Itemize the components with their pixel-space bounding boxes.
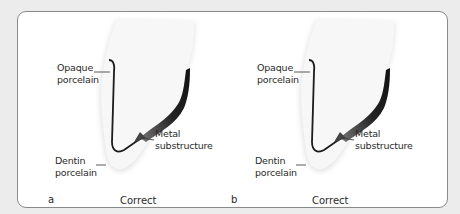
- panel-letter: a: [48, 194, 54, 205]
- panel-caption: Correct: [312, 195, 349, 206]
- tooth-crown-illustration: [200, 0, 430, 214]
- label-line: Dentin: [55, 155, 97, 167]
- metal-substructure-label: Metal substructure: [355, 128, 413, 152]
- label-line: Opaque: [57, 62, 99, 74]
- label-line: Dentin: [255, 155, 297, 167]
- label-line: substructure: [355, 140, 413, 152]
- panel-letter: b: [231, 194, 237, 205]
- dentin-porcelain-label: Dentin porcelain: [55, 155, 97, 179]
- panel-caption: Correct: [120, 195, 157, 206]
- opaque-porcelain-label: Opaque porcelain: [257, 62, 299, 86]
- label-line: porcelain: [57, 74, 99, 86]
- tooth-crown-illustration: [0, 0, 230, 214]
- label-line: Metal: [355, 128, 413, 140]
- dentin-porcelain-label: Dentin porcelain: [255, 155, 297, 179]
- label-line: Opaque: [257, 62, 299, 74]
- label-line: porcelain: [55, 167, 97, 179]
- label-line: porcelain: [255, 167, 297, 179]
- panel-a: Opaque porcelain Metal substructure Dent…: [0, 0, 230, 214]
- label-line: porcelain: [257, 74, 299, 86]
- opaque-porcelain-label: Opaque porcelain: [57, 62, 99, 86]
- panel-b: Opaque porcelain Metal substructure Dent…: [200, 0, 430, 214]
